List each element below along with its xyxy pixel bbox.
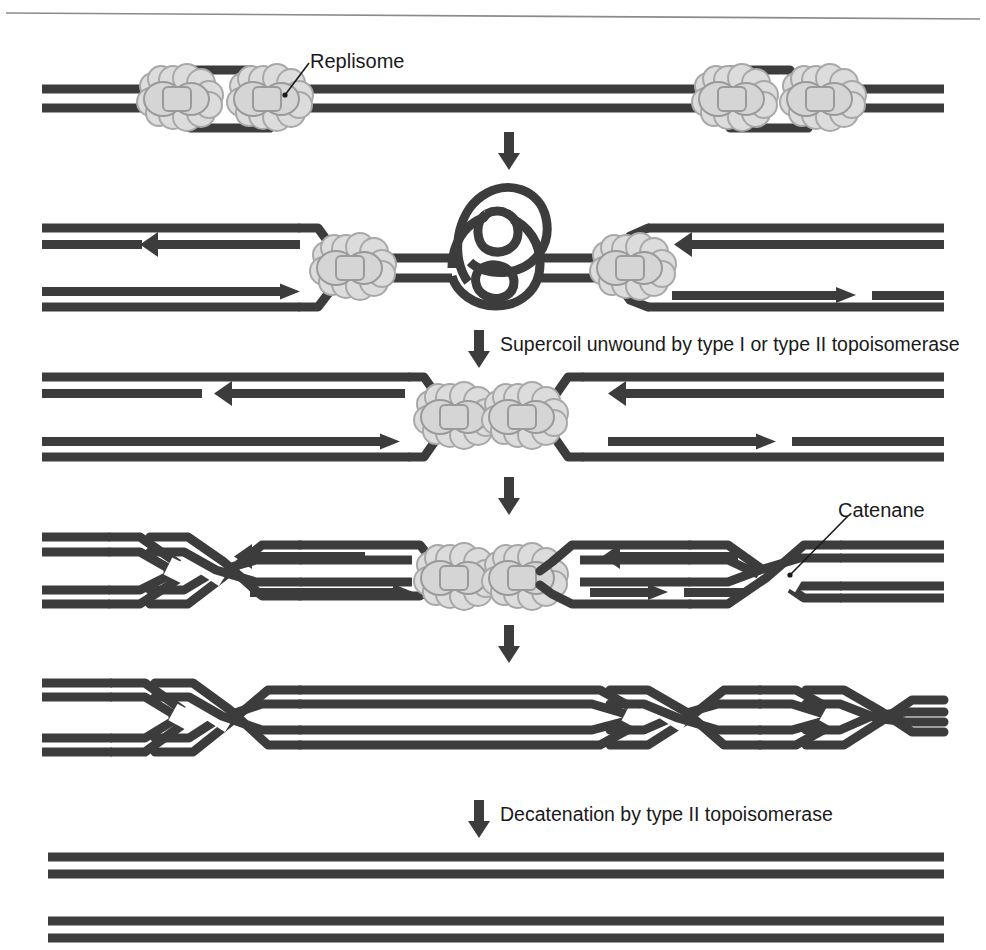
strand-arrow-right-lagging-1 <box>674 232 944 257</box>
okazaki-fragment-l2 <box>42 389 202 398</box>
figure-root: Replisome <box>0 0 986 950</box>
step-6-separated-duplexes <box>48 857 944 938</box>
step-4-catenane-formation: Catenane <box>42 499 944 610</box>
replisome-4 <box>780 64 866 131</box>
okazaki-fragment-r1 <box>872 291 944 300</box>
down-arrow-2 <box>468 330 490 368</box>
okazaki-fragment-l1 <box>42 240 142 249</box>
strand-arrow-left-leading-2 <box>42 434 400 450</box>
replisome-label: Replisome <box>310 50 404 72</box>
replisome-8 <box>482 382 568 449</box>
down-arrow-3 <box>498 477 520 515</box>
down-arrow-1 <box>498 132 520 170</box>
strand-arrow-right-lagging-2 <box>608 381 944 406</box>
step-5-catenated-molecules <box>42 683 944 752</box>
strand-arrow-right-leading-2 <box>608 434 776 450</box>
daughter-duplex-1 <box>48 857 944 874</box>
supercoil-figure-eight <box>452 187 547 306</box>
step-3-replisomes-meet <box>42 377 944 457</box>
strand-arrow-right-leading-1 <box>672 287 856 303</box>
strand-arrow-left-lagging-2 <box>214 381 405 406</box>
dna-replication-diagram: Replisome <box>0 0 986 950</box>
catenane-leader-dot <box>787 572 792 577</box>
replisome-1 <box>137 64 223 131</box>
replisome-3 <box>692 64 778 131</box>
down-arrow-5 <box>468 800 490 838</box>
top-divider <box>6 13 980 19</box>
replisome-leader-dot <box>282 92 287 97</box>
replisome-5 <box>310 233 396 300</box>
okazaki-fragment-r2 <box>792 437 944 446</box>
strand-arrow-left-lagging-1 <box>140 232 300 257</box>
replisome-6 <box>590 233 676 300</box>
caption-decatenation: Decatenation by type II topoisomerase <box>500 803 833 825</box>
catenane-label: Catenane <box>838 499 925 521</box>
step-1-replication-bubble: Replisome <box>42 50 944 131</box>
step-2-supercoil <box>42 187 944 307</box>
daughter-duplex-2 <box>48 921 944 938</box>
down-arrow-4 <box>498 625 520 663</box>
caption-supercoil-unwound: Supercoil unwound by type I or type II t… <box>500 333 960 355</box>
strand-arrow-left-leading-1 <box>42 284 300 300</box>
